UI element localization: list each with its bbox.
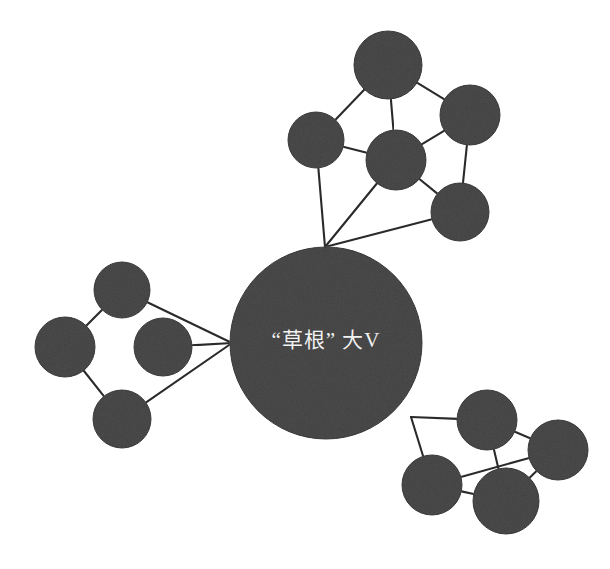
graph-edge	[411, 417, 423, 457]
graph-edge	[529, 470, 537, 478]
graph-node[interactable]	[366, 130, 426, 190]
graph-edge	[191, 343, 232, 345]
graph-edge	[318, 167, 325, 247]
graph-edge	[463, 144, 467, 184]
graph-node[interactable]	[457, 390, 517, 450]
graph-edge	[325, 182, 378, 247]
graph-edge	[335, 89, 365, 121]
graph-node[interactable]	[35, 317, 95, 377]
graph-edge	[419, 178, 439, 194]
graph-node[interactable]	[440, 85, 500, 145]
graph-edge	[342, 147, 368, 153]
graph-edge	[391, 98, 394, 131]
graph-node[interactable]	[93, 390, 151, 448]
node-layer	[35, 31, 588, 534]
graph-edge	[83, 370, 105, 397]
graph-edge	[411, 417, 458, 419]
graph-edge	[460, 491, 474, 494]
graph-edge	[325, 219, 433, 247]
network-diagram: “草根” 大V	[0, 0, 610, 569]
hub-node-label: “草根” 大V	[271, 328, 380, 352]
graph-node[interactable]	[431, 183, 489, 241]
graph-edge	[421, 130, 445, 145]
network-graph-canvas: “草根” 大V	[0, 0, 610, 569]
graph-edge	[514, 431, 532, 438]
graph-node[interactable]	[134, 318, 192, 376]
graph-node[interactable]	[94, 262, 150, 318]
graph-node[interactable]	[402, 455, 462, 515]
graph-edge	[416, 82, 445, 100]
graph-node[interactable]	[528, 420, 588, 480]
label-layer: “草根” 大V	[271, 328, 380, 352]
graph-node[interactable]	[473, 468, 539, 534]
graph-edge	[86, 309, 103, 326]
graph-node[interactable]	[354, 31, 422, 99]
graph-node[interactable]	[288, 112, 344, 168]
